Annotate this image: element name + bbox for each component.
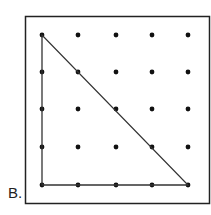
peg xyxy=(76,145,81,150)
peg xyxy=(114,33,119,38)
peg xyxy=(186,107,191,112)
peg xyxy=(150,70,155,75)
peg xyxy=(114,145,119,150)
figure-label: B. xyxy=(8,184,22,201)
peg xyxy=(150,33,155,38)
peg xyxy=(186,70,191,75)
peg xyxy=(76,33,81,38)
peg xyxy=(76,107,81,112)
peg xyxy=(186,145,191,150)
peg xyxy=(114,70,119,75)
geoboard xyxy=(0,0,211,215)
triangle-shape xyxy=(42,35,188,185)
peg xyxy=(150,107,155,112)
peg xyxy=(186,33,191,38)
